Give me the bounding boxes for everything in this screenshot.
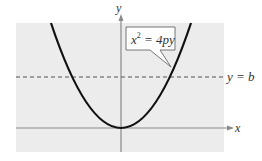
y-axis-label: y <box>115 1 122 15</box>
line-label: y = b <box>225 69 255 84</box>
x-axis-arrow-icon <box>227 126 234 131</box>
parabola-diagram: x2 = 4py y = b x y <box>0 0 262 161</box>
y-axis-arrow-icon <box>119 14 124 21</box>
x-axis-label: x <box>234 121 241 135</box>
plot-background <box>16 23 224 152</box>
equation-label: x2 = 4py <box>130 31 175 47</box>
